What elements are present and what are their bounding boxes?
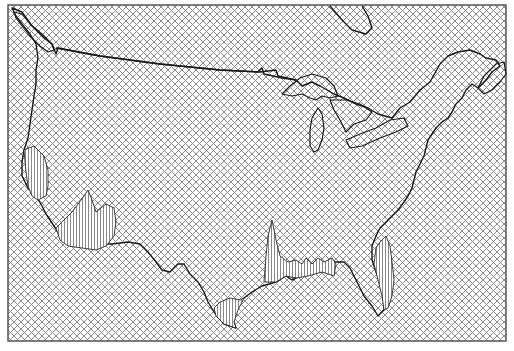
map-frame [8,5,506,341]
us-map [0,0,514,351]
